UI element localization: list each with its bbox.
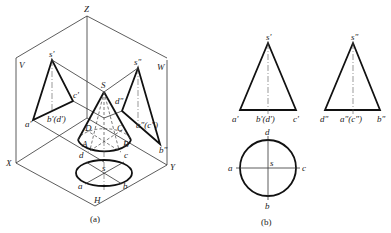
label-h-c: c [124, 150, 128, 160]
label-a-prime: a' [25, 119, 33, 129]
label-D: D [84, 123, 92, 133]
label-b-dprime: b" [159, 145, 168, 155]
label-h-d: d [79, 150, 84, 160]
label-ac-dprime: a"(c") [136, 120, 158, 130]
label-h-a: a [78, 181, 83, 191]
label-b-top-c: c [302, 163, 306, 173]
label-apex-s: S [101, 80, 106, 90]
label-b-top-d: d [265, 127, 270, 137]
caption-b: (b) [261, 217, 272, 227]
label-c-prime: c' [73, 90, 80, 100]
label-x: X [5, 158, 12, 168]
label-b-c-prime: c' [293, 114, 300, 124]
label-b-d-dprime: d" [320, 114, 329, 124]
label-v: V [19, 60, 26, 70]
top-view: d a c s b [228, 127, 306, 211]
label-b-top-b: b [265, 201, 270, 211]
label-b-ac-dprime: a"(c") [340, 114, 362, 124]
label-b-b-dprime: b" [377, 114, 386, 124]
label-b-a-prime: a' [232, 114, 240, 124]
label-b-bd-prime: b'(d') [256, 114, 275, 124]
label-A: A [81, 139, 88, 149]
label-b-s-prime: s' [266, 32, 273, 42]
label-s-prime: s' [49, 49, 56, 59]
label-C: C [117, 123, 124, 133]
label-B: B [123, 139, 129, 149]
label-h: H [93, 195, 101, 205]
label-y: Y [170, 162, 176, 172]
cone-projection-diagram: Z V W X Y H s' a' b'(d') c' s" d" a"(c")… [0, 0, 391, 233]
label-b-top-s: s [270, 158, 274, 168]
label-h-s: s [102, 163, 106, 173]
label-bd-prime: b'(d') [47, 114, 66, 124]
label-z: Z [84, 4, 90, 14]
label-w: W [157, 62, 166, 72]
caption-a: (a) [90, 214, 100, 224]
label-b-top-a: a [228, 163, 233, 173]
side-view: s" d" a"(c") b" [320, 32, 386, 124]
front-view: s' a' b'(d') c' [232, 32, 300, 124]
label-b-s-dprime: s" [351, 32, 359, 42]
label-h-b: b [123, 181, 128, 191]
figure-a-labels: Z V W X Y H s' a' b'(d') c' s" d" a"(c")… [5, 4, 176, 224]
label-d-dprime: d" [115, 96, 124, 106]
label-s-dprime: s" [134, 57, 142, 67]
